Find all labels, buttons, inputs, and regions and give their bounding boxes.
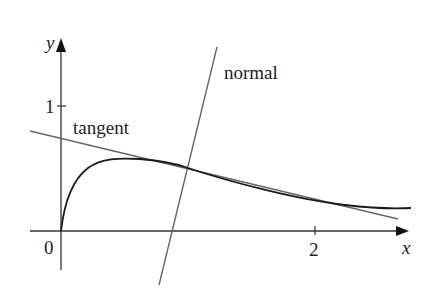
normal-line (159, 47, 217, 285)
tangent-normal-diagram: y x 0 1 2 tangent normal (0, 0, 429, 291)
origin-label: 0 (44, 238, 54, 257)
plot-canvas (0, 0, 429, 291)
x-axis-arrow-icon (396, 226, 409, 236)
x-axis-label: x (402, 238, 410, 257)
y-axis-label: y (46, 33, 54, 52)
y-axis-arrow-icon (56, 38, 66, 52)
x-tick-label-2: 2 (309, 240, 319, 259)
tangent-line (30, 131, 398, 219)
normal-label: normal (224, 63, 278, 82)
tangent-label: tangent (73, 118, 129, 137)
y-tick-label-1: 1 (45, 97, 55, 116)
function-curve-path (61, 159, 411, 231)
